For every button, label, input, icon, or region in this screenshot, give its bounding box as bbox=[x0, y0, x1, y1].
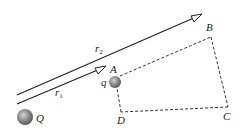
label-Q: Q bbox=[36, 112, 44, 124]
segment-cd bbox=[121, 107, 228, 112]
path-abcd bbox=[117, 37, 228, 112]
label-q: q bbox=[101, 76, 107, 88]
label-r2: r2 bbox=[95, 42, 103, 56]
charge-q-icon bbox=[109, 76, 121, 88]
label-B: B bbox=[206, 21, 213, 33]
segment-bc bbox=[211, 37, 228, 107]
segment-da bbox=[117, 88, 121, 112]
charge-Q-icon bbox=[17, 109, 33, 125]
segment-ab bbox=[120, 37, 211, 76]
label-r1: r1 bbox=[55, 86, 63, 100]
diagram-canvas: r2 r1 A q B C D Q bbox=[0, 0, 245, 130]
label-A: A bbox=[109, 63, 117, 75]
arrowhead-r2-icon bbox=[191, 14, 202, 22]
label-C: C bbox=[223, 110, 231, 122]
label-D: D bbox=[116, 114, 125, 126]
arrowhead-r1-icon bbox=[95, 66, 106, 74]
